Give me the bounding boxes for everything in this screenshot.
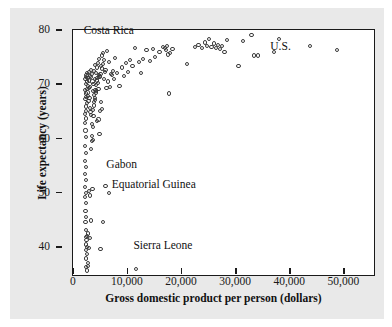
data-point (168, 51, 172, 55)
data-point (83, 185, 87, 189)
data-point (100, 107, 104, 111)
data-point (84, 151, 88, 155)
y-tick (56, 246, 62, 247)
data-point (137, 60, 141, 64)
y-tick-label: 80 (22, 23, 50, 35)
data-point (83, 195, 87, 199)
data-point (112, 77, 116, 81)
data-point (141, 57, 145, 61)
data-point (87, 96, 91, 100)
data-point (91, 114, 95, 118)
data-point (157, 50, 161, 54)
data-point (83, 128, 87, 132)
data-point (84, 165, 88, 169)
data-point (165, 44, 169, 48)
x-tick (181, 268, 182, 274)
data-point (89, 147, 93, 151)
data-point (106, 79, 110, 83)
data-point (92, 103, 96, 107)
data-point (99, 100, 103, 104)
data-point (96, 81, 100, 85)
data-point (87, 246, 91, 250)
data-point (84, 178, 88, 182)
x-tick (73, 268, 74, 274)
data-point (120, 65, 124, 69)
data-point (335, 48, 339, 52)
data-point (170, 47, 174, 51)
data-point (89, 218, 93, 222)
data-point (144, 48, 148, 52)
y-tick (56, 138, 62, 139)
annotation-label: Costa Rica (84, 24, 134, 36)
data-point (84, 201, 88, 205)
annotation-label: Gabon (106, 158, 137, 170)
x-tick (235, 268, 236, 274)
data-point (107, 60, 111, 64)
data-point (113, 56, 117, 60)
x-tick (343, 268, 344, 274)
x-tick (127, 268, 128, 274)
annotation-label: Sierra Leone (133, 239, 192, 251)
data-point (241, 39, 245, 43)
annotation-label: Equatorial Guinea (112, 178, 196, 190)
data-point (90, 139, 94, 143)
data-point (153, 55, 157, 59)
data-point (130, 64, 134, 68)
data-point (167, 91, 171, 95)
plot-frame (72, 29, 375, 276)
data-point (101, 220, 105, 224)
data-point (83, 121, 87, 125)
data-point (83, 209, 87, 213)
scatter-plot-area (73, 30, 374, 275)
x-tick-label: 20,000 (165, 275, 197, 287)
data-point (103, 184, 107, 188)
data-point (91, 125, 95, 129)
y-axis-label: Life expectancy (years) (36, 43, 48, 243)
data-point (101, 62, 105, 66)
data-point (115, 71, 119, 75)
data-point (126, 70, 130, 74)
data-point (122, 74, 126, 78)
data-point (256, 53, 260, 57)
x-tick-label: 0 (70, 275, 76, 287)
data-point (200, 46, 204, 50)
data-point (185, 62, 189, 66)
annotation-label: U.S. (270, 40, 290, 52)
data-point (133, 46, 137, 50)
data-point (207, 37, 211, 41)
data-point (220, 44, 224, 48)
data-point (84, 116, 88, 120)
data-point (225, 38, 229, 42)
data-point (108, 85, 112, 89)
y-tick (56, 83, 62, 84)
data-point (90, 187, 94, 191)
data-point (91, 108, 95, 112)
y-tick (56, 192, 62, 193)
data-point (107, 191, 111, 195)
x-tick-label: 40,000 (273, 275, 305, 287)
data-point (124, 61, 128, 65)
data-point (86, 231, 90, 235)
data-point (88, 236, 92, 240)
data-point (236, 64, 240, 68)
data-point (134, 267, 138, 271)
data-point (96, 117, 100, 121)
data-point (84, 135, 88, 139)
data-point (88, 193, 92, 197)
data-point (83, 159, 87, 163)
data-point (128, 58, 132, 62)
data-point (85, 268, 89, 272)
y-tick (56, 29, 62, 30)
figure-container: 010,00020,00030,00040,00050,000 40506070… (0, 0, 392, 327)
figure-panel: 010,00020,00030,00040,00050,000 40506070… (10, 8, 384, 319)
data-point (105, 49, 109, 53)
data-point (308, 44, 312, 48)
x-axis-label: Gross domestic product per person (dolla… (62, 292, 365, 304)
data-point (139, 71, 143, 75)
data-point (97, 132, 101, 136)
data-point (103, 70, 107, 74)
x-tick-label: 50,000 (328, 275, 360, 287)
x-tick-label: 10,000 (111, 275, 143, 287)
data-point (249, 33, 253, 37)
data-point (83, 220, 87, 224)
